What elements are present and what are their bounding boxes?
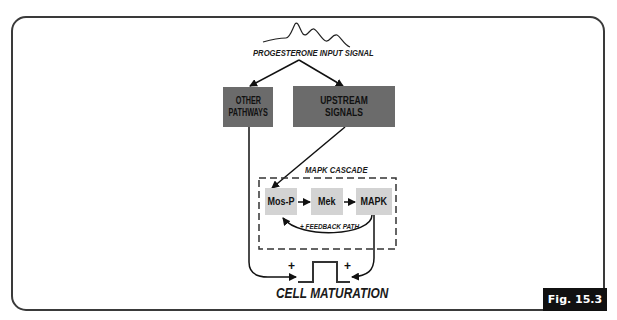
mos-p-label: Mos-P — [268, 196, 295, 207]
left-plus-sign: + — [288, 259, 295, 273]
other-pathways-line1: OTHER — [235, 95, 260, 107]
upstream-signals-label: UPSTREAM SIGNALS — [301, 95, 388, 119]
mos-p-node: Mos-P — [265, 188, 297, 215]
maturation-pulse — [298, 262, 350, 282]
mapk-node: MAPK — [356, 188, 392, 215]
right-plus-sign: + — [344, 259, 351, 273]
upstream-signals-box: UPSTREAM SIGNALS — [293, 86, 395, 127]
input-signal-waveform — [263, 23, 350, 47]
mek-node: Mek — [311, 188, 343, 215]
feedback-path-label: + FEEDBACK PATH — [300, 222, 359, 231]
other-pathways-line2: PATHWAYS — [228, 107, 267, 119]
mapk-cascade-label: MAPK CASCADE — [305, 165, 367, 175]
cell-maturation-label: CELL MATURATION — [276, 285, 388, 301]
input-signal-label: PROGESTERONE INPUT SIGNAL — [253, 48, 374, 58]
mapk-label: MAPK — [361, 196, 388, 207]
figure-number-badge: Fig. 15.3 — [543, 288, 607, 311]
mek-label: Mek — [318, 196, 336, 207]
other-pathways-box: OTHERPATHWAYS — [223, 87, 273, 127]
